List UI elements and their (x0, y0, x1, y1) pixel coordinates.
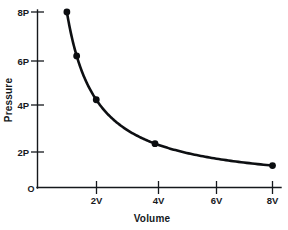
y-tick-label-6p: 6P (18, 56, 30, 67)
x-tick-label-6v: 6V (211, 195, 223, 206)
x-tick-label-4v: 4V (153, 195, 165, 206)
data-point (93, 96, 100, 103)
pressure-volume-curve (67, 12, 273, 166)
x-tick-label-8v: 8V (267, 195, 279, 206)
y-tick-label-4p: 4P (18, 100, 30, 111)
data-point-markers (63, 9, 275, 169)
data-point (152, 140, 159, 147)
chart-canvas: 8P 6P 4P 2P O 2V 4V 6V 8V Volume Pressur… (0, 0, 288, 230)
x-axis-title: Volume (134, 213, 171, 224)
data-point (73, 52, 80, 59)
y-tick-label-8p: 8P (18, 7, 30, 18)
x-tick-label-2v: 2V (91, 195, 103, 206)
y-tick-label-2p: 2P (18, 147, 30, 158)
data-point (63, 9, 70, 16)
pressure-volume-chart: 8P 6P 4P 2P O 2V 4V 6V 8V Volume Pressur… (0, 0, 288, 230)
origin-label: O (27, 184, 34, 194)
data-point (269, 162, 276, 169)
y-axis-title: Pressure (3, 78, 14, 123)
